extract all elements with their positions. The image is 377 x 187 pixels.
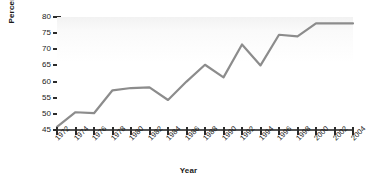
y-tick-label-55: 55: [31, 93, 51, 102]
y-tick-label-45: 45: [31, 125, 51, 134]
x-axis-title: Year: [0, 166, 377, 175]
y-tick-label-65: 65: [31, 60, 51, 69]
plot-area: [57, 17, 353, 130]
y-tick-label-50: 50: [31, 109, 51, 118]
y-tick-label-60: 60: [31, 77, 51, 86]
y-axis-title: Percentage: [7, 0, 16, 36]
y-tick-label-80: 80: [31, 12, 51, 21]
line-chart: Percentage 4550556065707580 197219741976…: [0, 0, 377, 187]
y-tick-label-70: 70: [31, 44, 51, 53]
y-tick-label-75: 75: [31, 28, 51, 37]
data-line-svg: [57, 17, 353, 130]
data-series-line: [57, 23, 353, 126]
